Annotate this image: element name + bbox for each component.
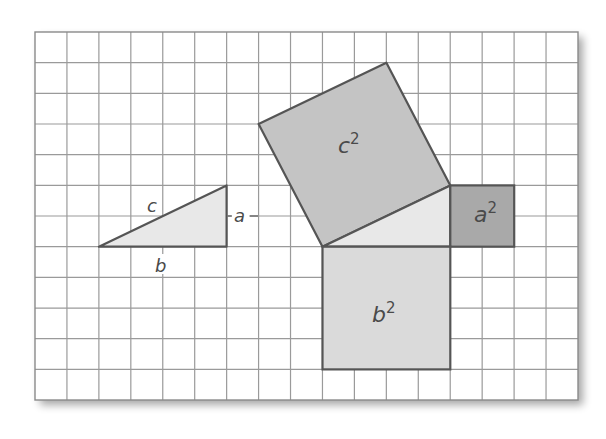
label-b-squared-exp: 2 xyxy=(386,299,396,317)
label-small-a: a xyxy=(234,205,245,226)
label-a-squared-base: a xyxy=(474,202,487,227)
label-c-squared-base: c xyxy=(338,133,350,158)
label-small-c: c xyxy=(147,195,157,216)
label-b-squared-base: b xyxy=(372,302,386,327)
pythagorean-diagram: c a b c2 a2 b2 xyxy=(0,0,606,439)
label-c-squared-exp: 2 xyxy=(350,130,360,148)
label-a-squared-exp: 2 xyxy=(487,199,497,217)
label-small-b: b xyxy=(155,255,166,276)
